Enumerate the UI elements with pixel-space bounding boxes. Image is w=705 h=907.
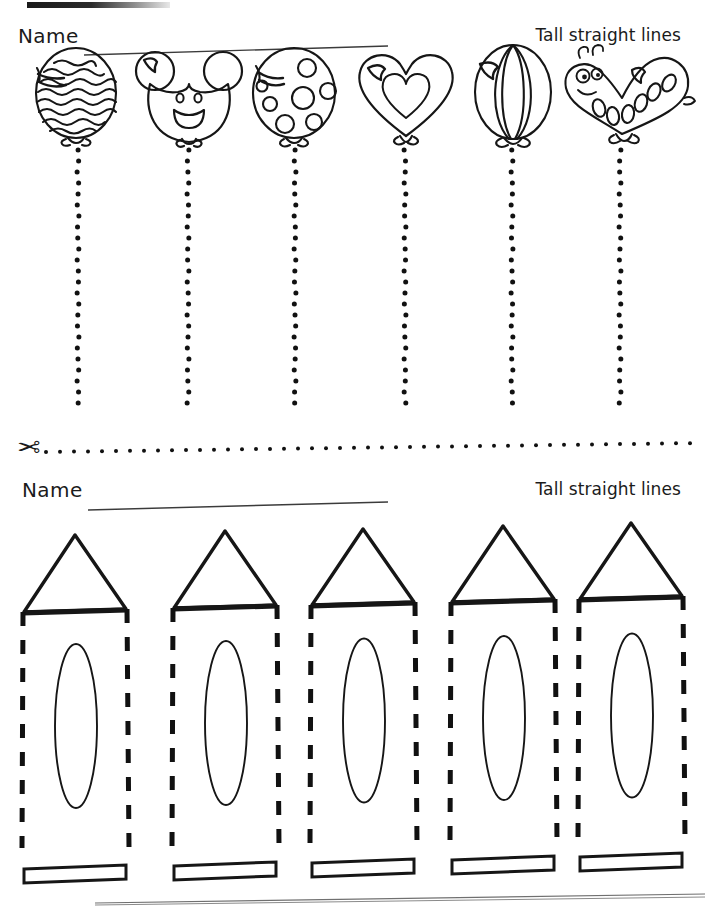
cut-dot: [478, 444, 482, 448]
worksheet-page: Name Tall straight lines: [0, 0, 705, 907]
trace-dot: [510, 280, 515, 285]
trace-dot: [509, 225, 514, 230]
trace-dot: [402, 291, 407, 296]
crayon[interactable]: [310, 529, 417, 877]
trace-dot: [186, 236, 191, 241]
cut-dot: [604, 442, 608, 446]
trace-dot: [510, 401, 515, 406]
trace-dot: [293, 313, 298, 318]
crayon[interactable]: [450, 526, 557, 874]
cut-dot: [72, 450, 76, 454]
trace-dot: [76, 302, 81, 307]
crayon-trace-line: [415, 602, 417, 844]
trace-dot: [293, 324, 298, 329]
trace-dot: [186, 357, 191, 362]
trace-dot: [185, 170, 190, 175]
trace-dot: [402, 390, 407, 395]
crayon-base-rect: [174, 862, 276, 880]
cut-dot: [310, 446, 314, 450]
trace-dot: [510, 368, 515, 373]
trace-dot: [617, 258, 622, 263]
crayon-center-ellipse: [205, 641, 247, 805]
cut-dot: [226, 448, 230, 452]
trace-dot: [509, 148, 514, 153]
crayon-base-rect: [312, 859, 414, 877]
trace-dot: [510, 192, 515, 197]
cut-dot: [268, 447, 272, 451]
trace-dot: [403, 192, 408, 197]
trace-dot: [185, 225, 190, 230]
cut-dot: [58, 450, 62, 454]
trace-dot: [510, 302, 515, 307]
trace-dot: [510, 269, 515, 274]
crayon[interactable]: [22, 535, 129, 883]
trace-dot: [293, 346, 298, 351]
cut-dot: [450, 444, 454, 448]
trace-dot: [186, 181, 191, 186]
trace-dot: [75, 346, 80, 351]
cut-dot: [198, 448, 202, 452]
trace-dot: [509, 324, 514, 329]
cut-dot: [380, 445, 384, 449]
trace-dot: [76, 247, 81, 252]
crayon-center-ellipse: [55, 644, 97, 808]
crayon-base-rect: [24, 865, 126, 883]
balloon-trace-lines[interactable]: [0, 0, 705, 430]
cut-dot: [296, 447, 300, 451]
crayon-tip: [580, 523, 682, 599]
crayon-center-ellipse: [611, 634, 653, 798]
trace-dot: [185, 401, 190, 406]
crayon[interactable]: [578, 523, 685, 871]
trace-dot: [185, 247, 190, 252]
trace-dot: [76, 181, 81, 186]
trace-dot: [618, 302, 623, 307]
crayon-trace-line: [578, 599, 579, 840]
trace-dot: [76, 280, 81, 285]
cut-line-row: ✂: [0, 430, 705, 474]
name-rule-bottom[interactable]: [88, 500, 388, 512]
cut-dot: [646, 442, 650, 446]
trace-dot: [292, 401, 297, 406]
trace-dot: [617, 280, 622, 285]
trace-dot: [186, 291, 191, 296]
trace-dot: [618, 390, 623, 395]
trace-dot: [617, 313, 622, 318]
crayon-center-ellipse: [483, 636, 525, 800]
cut-dot: [352, 446, 356, 450]
trace-dot: [185, 346, 190, 351]
trace-dot: [76, 269, 81, 274]
trace-dot: [510, 214, 515, 219]
balloon-trace-dots[interactable]: [0, 0, 705, 430]
cut-dot: [534, 443, 538, 447]
trace-dot: [75, 170, 80, 175]
cut-dot: [114, 449, 118, 453]
cut-dot: [520, 443, 524, 447]
trace-dot: [293, 225, 298, 230]
trace-dot: [618, 236, 623, 241]
crayon-center-ellipse: [343, 639, 385, 803]
trace-dot: [618, 203, 623, 208]
trace-dot: [618, 148, 623, 153]
trace-dot: [75, 203, 80, 208]
sheet-title-bottom: Tall straight lines: [535, 479, 681, 499]
trace-dot: [75, 291, 80, 296]
trace-dot: [293, 258, 298, 263]
trace-dot: [510, 159, 515, 164]
trace-dot: [292, 302, 297, 307]
cut-dot: [128, 449, 132, 453]
trace-dot: [617, 247, 622, 252]
trace-dot: [618, 335, 623, 340]
trace-dot: [76, 390, 81, 395]
crayon[interactable]: [172, 531, 279, 880]
trace-dot: [185, 258, 190, 263]
trace-dot: [509, 203, 514, 208]
crayon-band: [23, 610, 127, 613]
cut-dot: [324, 446, 328, 450]
trace-dot: [186, 390, 191, 395]
trace-dot: [75, 324, 80, 329]
cut-dot: [170, 448, 174, 452]
cut-dot: [184, 448, 188, 452]
trace-dot: [292, 390, 297, 395]
crayon-shapes[interactable]: [0, 520, 705, 907]
trace-dot: [618, 214, 623, 219]
